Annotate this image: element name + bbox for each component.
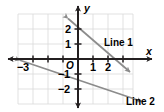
y-tick-label-2: 2	[65, 24, 71, 35]
x-tick-label-neg3: −3	[17, 62, 29, 73]
line-2-annotation: Line 2	[126, 97, 155, 107]
x-tick-label-2: 2	[105, 62, 111, 73]
y-tick-label-neg1: −1	[58, 69, 70, 80]
coordinate-plane-figure: y x O −3 1 2 2 1 −1 −2 Line 1 Line 2	[0, 0, 164, 112]
line-1-annotation: Line 1	[104, 38, 133, 48]
x-tick-label-1: 1	[90, 62, 96, 73]
y-tick-label-1: 1	[65, 39, 71, 50]
axis-lines	[8, 6, 152, 108]
y-tick-label-neg2: −2	[58, 84, 70, 95]
y-axis-label: y	[84, 3, 90, 14]
x-axis-label: x	[146, 46, 152, 57]
